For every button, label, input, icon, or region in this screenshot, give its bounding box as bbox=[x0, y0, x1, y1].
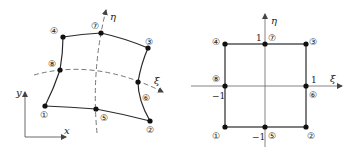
node-label-3: ③ bbox=[309, 37, 317, 47]
node-label-8: ⑧ bbox=[48, 59, 56, 69]
parent-square bbox=[225, 44, 306, 127]
node-label-5: ⑤ bbox=[100, 113, 108, 123]
node-6 bbox=[303, 83, 308, 88]
node-4 bbox=[222, 41, 227, 46]
node-label-4: ④ bbox=[50, 26, 58, 36]
node-label-1: ① bbox=[212, 131, 220, 141]
node-8 bbox=[222, 83, 227, 88]
xi-max-tick: 1 bbox=[311, 75, 317, 85]
node-1 bbox=[42, 103, 47, 108]
y-axis-label: y bbox=[15, 87, 22, 98]
edge-top bbox=[63, 33, 148, 48]
node-4 bbox=[60, 34, 65, 39]
x-axis-label: x bbox=[64, 125, 70, 136]
node-label-2: ② bbox=[307, 131, 315, 141]
left-panel-physical-element: y x ξ η ① ② ③ ④ ⑤ ⑥ ⑦ ⑧ bbox=[15, 10, 163, 137]
node-5 bbox=[262, 124, 267, 129]
diagram-canvas: y x ξ η ① ② ③ ④ ⑤ ⑥ ⑦ ⑧ ξ bbox=[0, 0, 354, 154]
node-7 bbox=[98, 30, 103, 35]
node-3 bbox=[303, 41, 308, 46]
node-label-2: ② bbox=[146, 125, 154, 135]
node-label-7: ⑦ bbox=[91, 21, 99, 31]
eta-min-tick: −1 bbox=[252, 132, 265, 142]
xi-min-tick: −1 bbox=[212, 91, 225, 101]
node-label-4: ④ bbox=[212, 37, 220, 47]
node-label-1: ① bbox=[40, 110, 48, 120]
node-label-5: ⑤ bbox=[268, 131, 276, 141]
node-label-7: ⑦ bbox=[268, 33, 276, 43]
node-label-6: ⑥ bbox=[142, 93, 150, 103]
node-1 bbox=[222, 124, 227, 129]
xi-label: ξ bbox=[330, 73, 336, 84]
node-label-8: ⑧ bbox=[212, 74, 220, 84]
node-label-6: ⑥ bbox=[309, 90, 317, 100]
eta-max-tick: 1 bbox=[256, 33, 262, 43]
right-panel-parent-element: ξ η 1 −1 1 −1 ① ② ③ ④ ⑤ ⑥ ⑦ ⑧ bbox=[191, 14, 342, 147]
node-5 bbox=[93, 106, 98, 111]
node-8 bbox=[57, 67, 62, 72]
node-label-3: ③ bbox=[145, 37, 153, 47]
node-2 bbox=[303, 124, 308, 129]
node-2 bbox=[147, 118, 152, 123]
xi-label: ξ bbox=[154, 75, 160, 86]
eta-label: η bbox=[110, 11, 116, 22]
node-7 bbox=[262, 41, 267, 46]
eta-label: η bbox=[271, 15, 277, 26]
edge-right bbox=[138, 48, 150, 121]
node-6 bbox=[135, 79, 140, 84]
